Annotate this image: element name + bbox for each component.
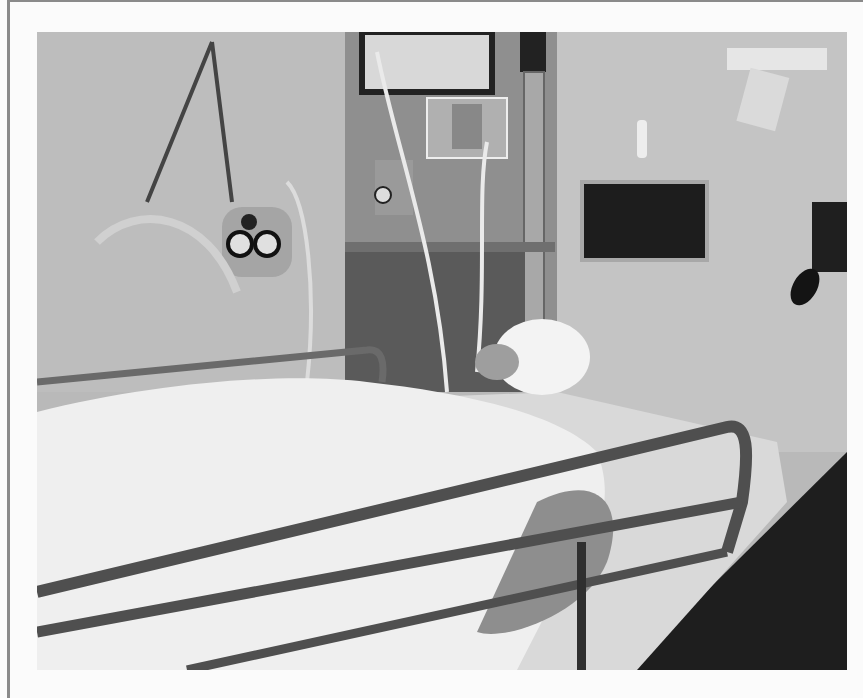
frame-left-border <box>7 0 10 698</box>
frame-top-border <box>8 0 863 2</box>
patient-face <box>475 344 519 380</box>
flowmeter-gauge <box>375 187 391 203</box>
bed-rail-post <box>577 542 586 670</box>
call-button-cord <box>637 120 647 158</box>
shelf <box>345 242 555 252</box>
regulator-gauges <box>222 207 292 277</box>
wall-clip-tape <box>727 48 827 70</box>
vertical-strip <box>524 72 544 352</box>
panel-window <box>452 104 482 149</box>
top-monitor <box>362 32 492 92</box>
monitor-side-dark <box>520 32 546 72</box>
hospital-photo <box>37 32 847 670</box>
dark-wall-panel <box>582 182 707 260</box>
bp-cuff-holder <box>812 202 847 272</box>
